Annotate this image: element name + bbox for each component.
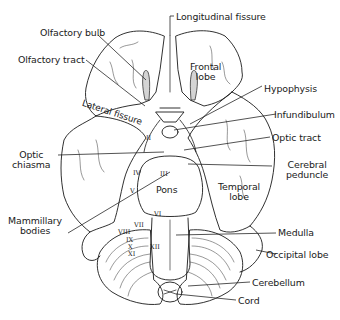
label-mammillary-bodies: Mammillary bodies (8, 216, 62, 236)
label-cerebral-peduncle-line2: peduncle (286, 170, 328, 180)
right-occipital-lobe (240, 226, 262, 272)
label-optic-chiasma: Optic chiasma (12, 150, 51, 170)
nerve-xi: XI (128, 251, 135, 258)
hypophysis-shape (162, 126, 178, 138)
nerve-iii: III (160, 171, 168, 178)
nerve-xii: XII (150, 244, 160, 251)
label-cerebral-peduncle: Cerebral peduncle (286, 160, 328, 180)
nerve-vi: VI (154, 211, 161, 218)
label-longitudinal-fissure: Longitudinal fissure (176, 12, 266, 22)
label-optic-tract: Optic tract (272, 133, 321, 143)
label-optic-chiasma-line2: chiasma (12, 160, 51, 170)
label-hypophysis: Hypophysis (264, 84, 317, 94)
right-temporal-lobe (188, 92, 275, 232)
label-infundibulum: Infundibulum (274, 110, 335, 120)
label-cord: Cord (238, 296, 260, 306)
label-frontal-lobe-line2: lobe (190, 72, 221, 82)
label-medulla: Medulla (278, 228, 314, 238)
label-olfactory-bulb: Olfactory bulb (40, 28, 105, 38)
label-cerebellum: Cerebellum (252, 278, 305, 288)
label-olfactory-tract: Olfactory tract (18, 55, 85, 65)
olfactory-bulb-left (143, 71, 150, 101)
nerve-vii: VII (134, 222, 144, 229)
nerve-viii: VIII (118, 229, 130, 236)
label-mammillary-bodies-line2: bodies (8, 226, 62, 236)
nerve-v: V (130, 188, 135, 195)
nerve-iv: IV (133, 170, 140, 177)
left-occipital-lobe (82, 232, 100, 261)
label-occipital-lobe: Occipital lobe (266, 250, 329, 260)
label-temporal-lobe: Temporal lobe (218, 182, 260, 202)
label-pons: Pons (156, 185, 177, 195)
nerve-ii: II (146, 135, 151, 142)
label-frontal-lobe: Frontal lobe (190, 62, 221, 82)
label-temporal-lobe-line2: lobe (218, 192, 260, 202)
